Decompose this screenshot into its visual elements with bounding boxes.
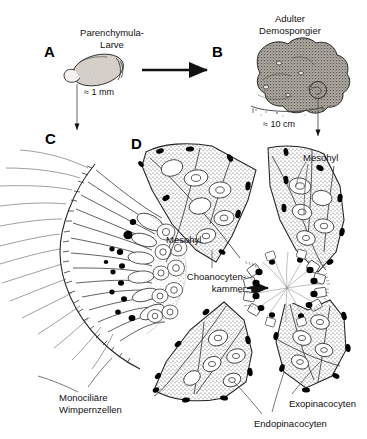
label-mesohyl-left: Mesohyl [166,234,201,246]
panel-letter-b: B [212,44,223,59]
label-mesohyl-right: Mesohyl [303,152,338,164]
label-adult-demosponge: Adulter Demospongier [240,13,340,36]
scale-label-larva: ≈ 1 mm [84,87,114,97]
label-exopinacocytes: Exopinacocyten [289,398,356,410]
label-endopinacocytes: Endopinacocyten [254,418,327,430]
panel-letter-a: A [44,44,55,59]
label-monociliary-cells: Monociliäre Wimpernzellen [59,392,122,415]
scale-label-adult: ≈ 10 cm [263,119,295,129]
label-parenchymula-larva: Parenchymula- Larve [67,27,157,50]
figure-canvas: A B C D Parenchymula- Larve Adulter Demo… [0,0,367,439]
adult-demosponge-drawing [251,38,350,117]
parenchymula-larva-drawing [64,49,127,91]
diagram-illustration [0,0,367,439]
panel-letter-d: D [131,136,142,151]
label-choanocyte-chamber: Choanocyten- kammer [178,271,246,294]
panel-letter-c: C [45,131,56,146]
tissue-wedge-lower-right [273,300,351,393]
